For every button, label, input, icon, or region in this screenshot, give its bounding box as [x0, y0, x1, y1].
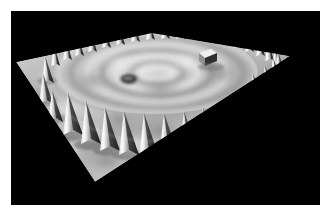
plot-canvas: [11, 11, 320, 205]
stm-figure: Three-dimensional grayscale STM topograp…: [0, 0, 331, 216]
three-d-scene: [11, 11, 320, 205]
surface-render: [11, 11, 320, 205]
